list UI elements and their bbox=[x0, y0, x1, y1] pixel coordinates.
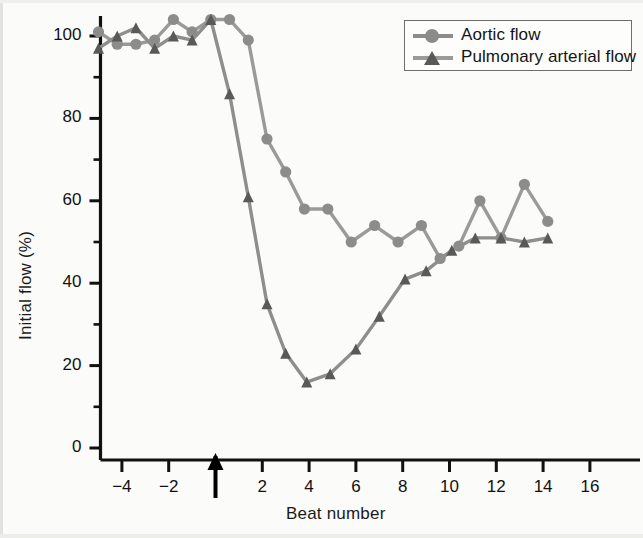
data-point-marker bbox=[93, 26, 104, 37]
x-tick-label: 14 bbox=[518, 477, 568, 497]
data-point-marker bbox=[280, 166, 291, 177]
x-tick-label: 2 bbox=[237, 477, 287, 497]
x-tick-label: 10 bbox=[425, 477, 475, 497]
y-tick-label: 100 bbox=[22, 25, 82, 45]
chart-figure: 020406080100−4−2246810121416 Initial flo… bbox=[0, 0, 643, 538]
data-point-marker bbox=[224, 88, 235, 99]
plot-canvas bbox=[0, 0, 643, 538]
y-axis-label: Initial flow (%) bbox=[16, 231, 36, 340]
y-tick-label: 0 bbox=[22, 437, 82, 457]
x-tick-label: 16 bbox=[565, 477, 615, 497]
data-point-marker bbox=[224, 14, 235, 25]
data-point-marker bbox=[280, 348, 291, 359]
data-point-marker bbox=[322, 203, 333, 214]
data-point-marker bbox=[519, 179, 530, 190]
y-tick-label: 20 bbox=[22, 355, 82, 375]
legend-entry-aortic-flow: Aortic flow bbox=[413, 24, 541, 46]
data-point-marker bbox=[299, 203, 310, 214]
data-point-marker bbox=[416, 220, 427, 231]
x-tick-label: 4 bbox=[284, 477, 334, 497]
data-point-marker bbox=[542, 216, 553, 227]
x-tick-label: 12 bbox=[471, 477, 521, 497]
data-point-marker bbox=[243, 191, 254, 202]
legend-marker-circle-icon bbox=[413, 26, 453, 44]
data-point-marker bbox=[369, 220, 380, 231]
data-point-marker bbox=[261, 133, 272, 144]
x-tick-label: −4 bbox=[97, 477, 147, 497]
legend-entry-pulmonary-arterial-flow: Pulmonary arterial flow bbox=[413, 46, 636, 68]
data-point-marker bbox=[243, 35, 254, 46]
x-tick-label: 6 bbox=[331, 477, 381, 497]
y-tick-label: 60 bbox=[22, 190, 82, 210]
x-tick-label: −2 bbox=[144, 477, 194, 497]
x-axis-label: Beat number bbox=[286, 504, 386, 524]
data-point-marker bbox=[346, 236, 357, 247]
data-point-marker bbox=[474, 195, 485, 206]
data-point-marker bbox=[168, 14, 179, 25]
data-point-marker bbox=[261, 298, 272, 309]
axes-layer bbox=[90, 16, 641, 472]
x-tick-label: 8 bbox=[378, 477, 428, 497]
legend-marker-triangle-icon bbox=[413, 48, 453, 66]
y-tick-label: 80 bbox=[22, 107, 82, 127]
legend-label-aortic-flow: Aortic flow bbox=[461, 25, 541, 45]
data-point-marker bbox=[392, 236, 403, 247]
legend-label-pulmonary-arterial-flow: Pulmonary arterial flow bbox=[461, 47, 636, 67]
chart-legend: Aortic flow Pulmonary arterial flow bbox=[404, 20, 632, 71]
data-point-marker bbox=[130, 39, 141, 50]
